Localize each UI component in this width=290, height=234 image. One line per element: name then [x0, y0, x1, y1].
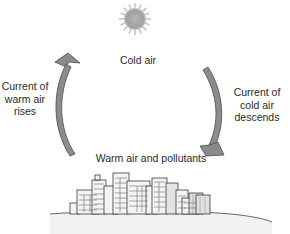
cold-air-descends-label: Current of cold air descends — [226, 86, 288, 124]
warm-air-rises-line-1: Current of — [0, 80, 56, 93]
cold-air-descends-line-1: Current of — [226, 86, 288, 99]
warm-air-pollutants-label: Warm air and pollutants — [76, 152, 226, 165]
cold-air-descends-line-3: descends — [226, 111, 288, 124]
warm-air-rises-label: Current of warm air rises — [0, 80, 56, 118]
warm-air-rises-line-3: rises — [0, 105, 56, 118]
cold-air-label: Cold air — [108, 54, 168, 67]
warm-air-rising-arrow — [55, 53, 80, 156]
cold-air-descends-line-2: cold air — [226, 99, 288, 112]
ground — [50, 211, 272, 234]
cold-air-descending-arrow — [200, 67, 224, 156]
warm-air-rises-line-2: warm air — [0, 93, 56, 106]
sun — [118, 2, 152, 36]
